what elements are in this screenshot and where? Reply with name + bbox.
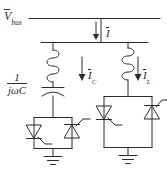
impedance-numerator: 1 xyxy=(7,72,27,83)
capacitor-current-label: IC xyxy=(88,70,96,84)
capacitor-current-subscript: C xyxy=(92,78,97,85)
total-current-symbol: I xyxy=(106,28,110,39)
bus-voltage-subscript: bus xyxy=(11,18,21,27)
reactor-current-subscript: L xyxy=(147,78,151,85)
right-inductor-coil xyxy=(122,48,134,80)
circuit-diagram: Vbus I IC IL 1 jωC xyxy=(0,0,167,170)
capacitor-impedance-label: 1 jωC xyxy=(7,72,27,96)
total-current-label: I xyxy=(106,28,110,39)
bus-voltage-label: Vbus xyxy=(4,10,22,25)
left-inductor-coil xyxy=(47,50,59,82)
current-arrow-il-head xyxy=(135,74,142,81)
impedance-fraction: 1 jωC xyxy=(7,72,27,96)
capacitor-bottom-plate-curved xyxy=(42,92,64,96)
current-arrow-i-head xyxy=(93,34,99,40)
current-arrow-ic-head xyxy=(79,74,86,81)
reactor-current-label: IL xyxy=(143,70,150,84)
impedance-denominator: jωC xyxy=(7,85,27,96)
